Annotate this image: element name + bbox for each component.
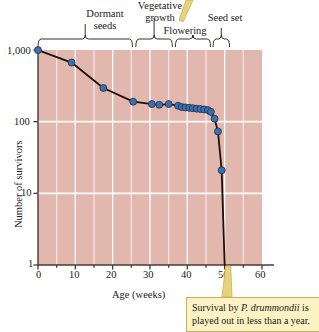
chart-canvas xyxy=(0,0,319,332)
survivorship-figure: Number of survivors Age (weeks) Dormant … xyxy=(0,0,319,332)
callout-species-name: P. drummondii xyxy=(241,302,300,313)
callout-text-before: Survival by xyxy=(192,302,241,313)
phase-brackets xyxy=(38,18,230,47)
top-callout-pointer xyxy=(179,0,193,22)
callout-pointer xyxy=(222,266,232,297)
callout-box: Survival by P. drummondii is played out … xyxy=(186,297,319,332)
